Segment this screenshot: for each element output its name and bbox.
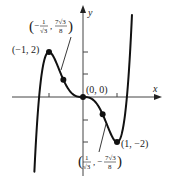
svg-text:1: 1 [42,18,46,26]
svg-text:7√3: 7√3 [55,18,66,26]
inflection-right-label: ( 1 √3 , − 7√3 8 ) [78,153,122,171]
inflection-point-right [100,111,106,117]
local-max-point [46,49,52,55]
svg-text:√3: √3 [40,27,48,35]
pointer-line-left-inflection [61,37,71,70]
inflection-left-label: ( − 1 √3 , 7√3 8 ) [29,18,73,35]
pointer-line-right-inflection [99,124,106,152]
origin-label: (0, 0) [86,84,108,96]
svg-text:8: 8 [108,163,112,171]
svg-text:7√3: 7√3 [105,154,116,162]
label-sign-y: − [97,156,102,166]
svg-text:): ) [68,18,73,35]
local-min-label: (1, −2) [121,138,148,150]
y-axis-arrow-icon [80,5,86,13]
graph-svg: x y (−1, 2) (0, 0) (1, −2) ( − [0,0,169,183]
y-axis-label: y [87,7,93,18]
local-max-label: (−1, 2) [12,44,39,56]
svg-text:1: 1 [85,154,89,162]
local-min-point [114,139,120,145]
function-graph-figure: x y (−1, 2) (0, 0) (1, −2) ( − [0,0,169,183]
svg-text:8: 8 [59,27,63,35]
svg-text:): ) [117,153,122,170]
svg-text:,: , [50,21,52,31]
x-axis-label: x [152,83,158,94]
svg-text:,: , [93,157,95,167]
inflection-point-left [60,77,66,83]
label-sign-x: − [34,20,39,30]
x-axis-arrow-icon [154,94,162,100]
svg-text:√3: √3 [83,163,91,171]
